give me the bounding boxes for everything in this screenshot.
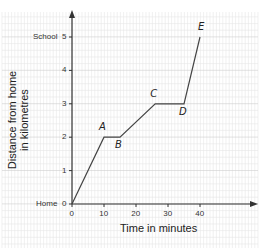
y-axis-label-line2: in kilometres xyxy=(18,71,30,169)
y-axis-label-line1: Distance from home xyxy=(6,71,18,169)
y-tick-label: 3 xyxy=(62,99,66,108)
distance-time-graph: School Home Distance from home in kilome… xyxy=(0,0,261,252)
point-label-d: D xyxy=(179,106,187,117)
x-tick-label: 40 xyxy=(195,209,204,218)
y-axis-arrow-icon xyxy=(69,10,75,18)
point-label-e: E xyxy=(198,21,204,32)
x-tick-label: 30 xyxy=(163,209,172,218)
x-axis-label: Time in minutes xyxy=(120,222,197,234)
point-label-a: A xyxy=(99,121,106,132)
x-tick-label: 20 xyxy=(131,209,140,218)
y-tick-name-home: Home xyxy=(36,199,57,208)
y-tick-label: 1 xyxy=(62,166,66,175)
y-tick-label: 4 xyxy=(62,65,66,74)
journey-line xyxy=(72,37,200,204)
y-tick-label: 2 xyxy=(62,132,66,141)
y-tick-name-school: School xyxy=(33,32,57,41)
point-label-c: C xyxy=(150,88,157,99)
x-tick-label: 10 xyxy=(99,209,108,218)
y-tick-label: 5 xyxy=(62,32,66,41)
x-tick-label: 0 xyxy=(70,209,74,218)
x-axis-arrow-icon xyxy=(250,201,258,207)
point-label-b: B xyxy=(115,139,122,150)
y-tick-label: 0 xyxy=(62,199,66,208)
